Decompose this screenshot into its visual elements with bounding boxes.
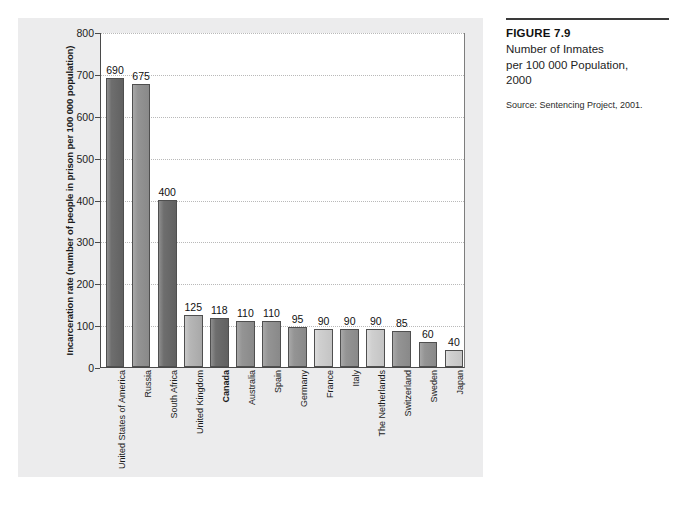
bar-slot: 60 <box>419 33 438 367</box>
bar[interactable] <box>340 329 359 367</box>
y-tick-label: 0 <box>64 363 94 373</box>
figure-title-line-2: per 100 000 Population, <box>506 58 677 74</box>
x-axis-label: Canada <box>222 370 231 474</box>
y-tick-label: 700 <box>64 70 94 80</box>
x-axis-label: Italy <box>352 370 361 474</box>
bar-slot: 110 <box>236 33 255 367</box>
bar-value-label: 110 <box>237 308 254 319</box>
bar-value-label: 400 <box>158 187 176 198</box>
figure-title: Number of Inmates per 100 000 Population… <box>506 42 677 89</box>
x-axis-label: United States of America <box>118 370 127 474</box>
bar-slot: 118 <box>210 33 229 367</box>
bar[interactable] <box>288 327 307 367</box>
bar-slot: 95 <box>288 33 307 367</box>
bar-slot: 400 <box>158 33 177 367</box>
x-axis-label: Sweden <box>430 370 439 474</box>
bar-slot: 40 <box>445 33 464 367</box>
caption-block: FIGURE 7.9 Number of Inmates per 100 000… <box>506 18 677 112</box>
bar-slot: 110 <box>262 33 281 367</box>
x-axis-label: Spain <box>274 370 283 474</box>
bar-value-label: 690 <box>106 65 124 76</box>
bar[interactable] <box>158 200 177 368</box>
bar-value-label: 125 <box>184 302 202 313</box>
bar-value-label: 90 <box>344 316 356 327</box>
bar-value-label: 90 <box>370 316 382 327</box>
x-axis-label: Russia <box>144 370 153 474</box>
bar-slot: 90 <box>366 33 385 367</box>
bar-value-label: 675 <box>132 71 150 82</box>
bar-value-label: 40 <box>448 337 460 348</box>
bar-value-label: 60 <box>422 329 434 340</box>
x-axis-label: Germany <box>300 370 309 474</box>
x-axis-label: France <box>326 370 335 474</box>
figure-title-line-3: 2000 <box>506 73 677 89</box>
bar-value-label: 85 <box>396 318 408 329</box>
bar[interactable] <box>262 321 281 367</box>
bar[interactable] <box>314 329 333 367</box>
plot-area: 69067540012511811011095909090856040 <box>100 33 465 368</box>
x-axis-label: The Netherlands <box>378 370 387 474</box>
bar[interactable] <box>132 84 151 367</box>
bar-value-label: 95 <box>292 314 304 325</box>
y-tick-label: 800 <box>64 28 94 38</box>
bar-slot: 90 <box>314 33 333 367</box>
bar-slot: 690 <box>106 33 125 367</box>
bar-value-label: 110 <box>263 308 280 319</box>
bar[interactable] <box>106 78 125 367</box>
bar[interactable] <box>210 318 229 367</box>
y-tick-mark <box>95 368 100 369</box>
y-tick-label: 200 <box>64 279 94 289</box>
y-tick-label: 100 <box>64 321 94 331</box>
x-axis-label: Japan <box>456 370 465 474</box>
bar-slot: 90 <box>340 33 359 367</box>
x-axis-label: United Kingdom <box>196 370 205 474</box>
bar[interactable] <box>445 350 464 367</box>
caption-divider <box>506 18 669 20</box>
figure-title-line-1: Number of Inmates <box>506 42 677 58</box>
bar-value-label: 90 <box>318 316 330 327</box>
x-axis-label: Switzerland <box>404 370 413 474</box>
figure-source: Source: Sentencing Project, 2001. <box>506 99 677 112</box>
bar[interactable] <box>419 342 438 367</box>
x-axis-label: Australia <box>248 370 257 474</box>
x-axis-label: South Africa <box>170 370 179 474</box>
y-tick-label: 500 <box>64 154 94 164</box>
bar[interactable] <box>184 315 203 367</box>
bar[interactable] <box>366 329 385 367</box>
bar[interactable] <box>236 321 255 367</box>
y-tick-label: 400 <box>64 196 94 206</box>
bar-slot: 85 <box>392 33 411 367</box>
y-tick-label: 300 <box>64 237 94 247</box>
y-tick-label: 600 <box>64 112 94 122</box>
bar-slot: 125 <box>184 33 203 367</box>
bar-slot: 675 <box>132 33 151 367</box>
bar[interactable] <box>392 331 411 367</box>
bar-value-label: 118 <box>211 305 228 316</box>
figure-number: FIGURE 7.9 <box>506 26 677 41</box>
